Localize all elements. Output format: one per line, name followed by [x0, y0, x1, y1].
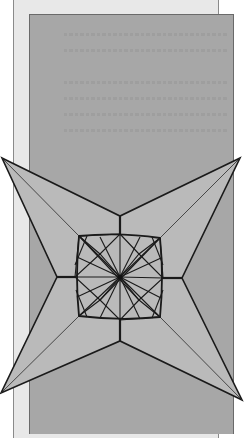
center-point — [118, 275, 123, 280]
